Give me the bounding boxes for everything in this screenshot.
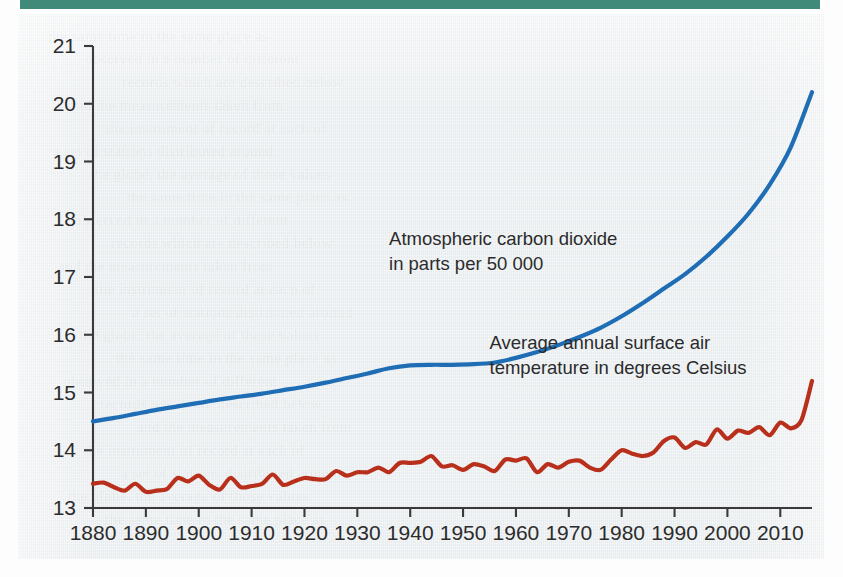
co2-annotation-line: in parts per 50 000 bbox=[389, 253, 543, 274]
scanned-page: the same time in the same place asobserv… bbox=[0, 0, 843, 577]
x-tick-label: 1990 bbox=[651, 521, 698, 544]
axes bbox=[93, 46, 812, 508]
y-axis-labels: 131415161718192021 bbox=[53, 34, 77, 519]
axis-lines bbox=[93, 46, 812, 508]
x-tick-label: 1920 bbox=[281, 521, 328, 544]
x-tick-label: 1880 bbox=[70, 521, 117, 544]
y-tick-label: 20 bbox=[53, 92, 76, 115]
data-series bbox=[93, 92, 812, 492]
co2-annotation-line: Atmospheric carbon dioxide bbox=[389, 228, 617, 249]
x-axis-labels: 1880189019001910192019301940195019601970… bbox=[70, 521, 804, 544]
chart-svg: 131415161718192021 188018901900191019201… bbox=[0, 0, 843, 577]
x-tick-label: 1970 bbox=[545, 521, 592, 544]
y-tick-label: 17 bbox=[53, 265, 76, 288]
y-tick-label: 14 bbox=[53, 438, 77, 461]
x-tick-label: 1910 bbox=[228, 521, 275, 544]
climate-chart: 131415161718192021 188018901900191019201… bbox=[0, 0, 843, 577]
chart-annotations: Atmospheric carbon dioxidein parts per 5… bbox=[389, 228, 747, 378]
series-line-temperature bbox=[93, 381, 812, 492]
y-tick-label: 19 bbox=[53, 150, 76, 173]
y-tick-label: 15 bbox=[53, 381, 76, 404]
y-tick-label: 13 bbox=[53, 496, 76, 519]
x-tick-label: 1940 bbox=[387, 521, 434, 544]
co2-annotation: Atmospheric carbon dioxidein parts per 5… bbox=[389, 228, 617, 274]
x-tick-label: 1950 bbox=[440, 521, 487, 544]
x-tick-label: 1980 bbox=[598, 521, 645, 544]
y-tick-label: 18 bbox=[53, 207, 76, 230]
x-tick-label: 2000 bbox=[704, 521, 751, 544]
x-tick-label: 2010 bbox=[757, 521, 804, 544]
x-tick-label: 1900 bbox=[175, 521, 222, 544]
x-tick-label: 1890 bbox=[123, 521, 170, 544]
temperature-annotation-line: temperature in degrees Celsius bbox=[490, 357, 747, 378]
x-tick-label: 1960 bbox=[493, 521, 540, 544]
temperature-annotation-line: Average annual surface air bbox=[490, 332, 711, 353]
x-tick-label: 1930 bbox=[334, 521, 381, 544]
y-tick-label: 21 bbox=[53, 34, 76, 57]
y-tick-label: 16 bbox=[53, 323, 76, 346]
